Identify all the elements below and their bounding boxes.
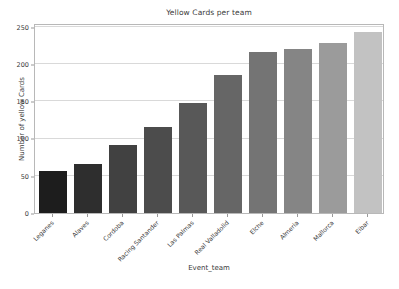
chart-title: Yellow Cards per team [34,8,384,17]
plot-area [34,24,384,214]
x-axis-label: Event_team [34,264,384,272]
bar [319,43,347,213]
x-tick-mark [227,214,228,217]
y-tick-label: 200 [17,61,29,69]
x-tick-label: Almeria [278,219,300,241]
x-tick-mark [122,214,123,217]
bar [109,145,137,213]
bar [284,49,312,213]
y-tick-label: 100 [17,135,29,143]
bar [214,75,242,213]
bar [354,32,382,213]
x-tick-mark [297,214,298,217]
x-tick-mark [262,214,263,217]
y-tick-label: 250 [17,24,29,32]
bar [74,164,102,213]
x-tick-label: Cordoba [101,219,124,242]
x-tick-label: Las Palmas [165,219,194,248]
x-tick-mark [332,214,333,217]
bar [179,103,207,213]
bar [249,52,277,213]
x-tick-label: Mallorca [311,219,334,242]
y-tick-label: 0 [25,210,29,218]
x-tick-mark [87,214,88,217]
bar [144,127,172,213]
x-tick-label: Eibar [353,219,369,235]
x-axis: LeganesAlavesCordobaRacing SantanderLas … [34,214,384,262]
x-tick-label: Leganes [31,219,54,242]
x-tick-mark [192,214,193,217]
y-tick-label: 50 [21,173,29,181]
x-tick-mark [157,214,158,217]
bar [39,171,67,213]
y-tick-label: 150 [17,98,29,106]
x-tick-label: Alaves [70,219,89,238]
y-axis: 050100150200250 [0,24,34,214]
x-tick-mark [52,214,53,217]
x-tick-label: Real Valladolid [193,219,230,256]
matplotlib-figure: Yellow Cards per team Number of yellow C… [0,0,399,289]
bar-series [35,25,383,213]
x-tick-mark [367,214,368,217]
x-tick-label: Elche [248,219,265,236]
